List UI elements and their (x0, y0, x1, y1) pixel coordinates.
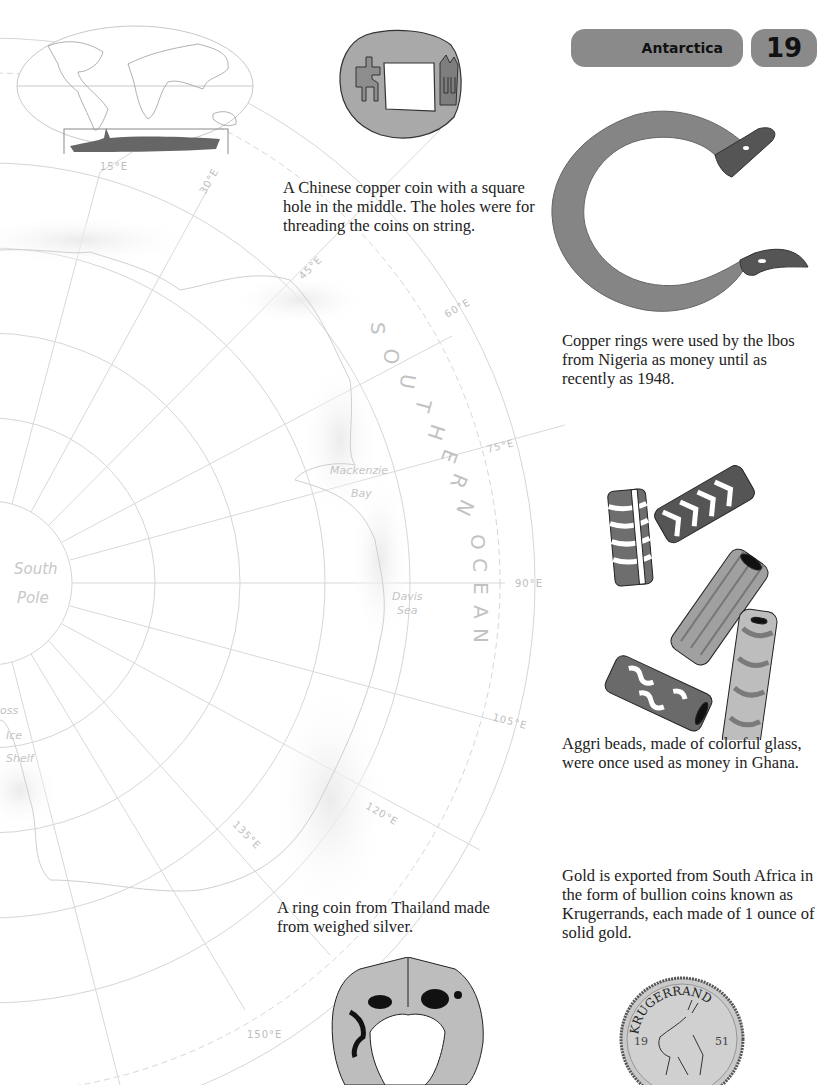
coastline (0, 215, 410, 920)
label-90e: 90°E (515, 578, 543, 589)
svg-text:U: U (395, 372, 421, 391)
copper-ring-illustration (540, 95, 819, 315)
svg-text:E: E (469, 582, 493, 595)
place-ice: Ice (6, 729, 22, 742)
page-number: 19 (766, 33, 802, 63)
label-60e: 60°E (443, 296, 473, 320)
aggri-beads-caption: Aggri beads, made of colorful glass, wer… (562, 734, 819, 772)
svg-text:N: N (469, 628, 493, 643)
chapter-title-pill: Antarctica (571, 29, 743, 67)
pole-label: Pole (17, 589, 49, 607)
svg-text:S: S (366, 322, 390, 335)
label-75e: 75°E (486, 437, 516, 455)
place-ross: oss (0, 704, 18, 717)
svg-text:O: O (379, 348, 404, 366)
svg-text:R: R (445, 470, 472, 492)
svg-text:19: 19 (634, 1035, 648, 1048)
krugerrand-caption: Gold is exported from South Africa in th… (562, 866, 819, 942)
svg-text:C: C (468, 558, 492, 572)
label-150e: 150°E (247, 1029, 282, 1040)
page-number-badge: 19 (751, 29, 817, 67)
label-30e: 30°E (197, 166, 221, 196)
svg-text:T: T (410, 396, 437, 416)
label-15e: 15°E (100, 161, 128, 172)
chinese-coin-caption: A Chinese copper coin with a square hole… (283, 178, 553, 235)
world-locator-map (8, 24, 263, 154)
south-label: South (14, 560, 58, 578)
place-davis: Davis (392, 590, 423, 603)
copper-rings-caption: Copper rings were used by the lbos from … (562, 331, 817, 388)
place-sea: Sea (397, 604, 418, 617)
place-bay: Bay (351, 487, 372, 500)
label-135e: 135°E (231, 819, 264, 852)
chinese-coin-illustration (336, 27, 466, 142)
place-mackenzie: Mackenzie (330, 464, 388, 477)
chapter-title: Antarctica (642, 40, 723, 56)
aggri-beads-illustration (600, 460, 800, 740)
label-105e: 105°E (491, 711, 528, 731)
krugerrand-coin-illustration: KRUGERRAND 19 51 (618, 975, 746, 1085)
svg-text:H: H (423, 421, 450, 443)
svg-text:51: 51 (715, 1035, 729, 1048)
thai-ring-coin-illustration (325, 957, 490, 1085)
svg-text:A: A (469, 605, 493, 619)
place-shelf: Shelf (6, 752, 36, 765)
thai-ring-caption: A ring coin from Thailand made from weig… (277, 898, 497, 936)
svg-text:E: E (436, 446, 463, 466)
svg-text:O: O (466, 534, 490, 550)
svg-text:N: N (451, 496, 479, 520)
